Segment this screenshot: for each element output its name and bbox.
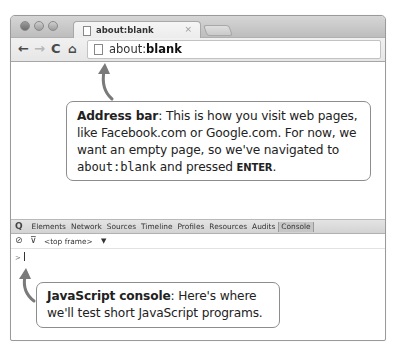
- filter-icon[interactable]: ⊽: [30, 235, 37, 245]
- devtools-tab-bar: Q Elements Network Sources Timeline Prof…: [11, 219, 385, 234]
- address-bar[interactable]: about:blank: [87, 40, 381, 59]
- reload-icon[interactable]: C: [51, 41, 61, 57]
- callout-term: Address bar: [77, 109, 158, 123]
- maximize-window-button[interactable]: [48, 21, 58, 31]
- new-tab-button[interactable]: [203, 25, 233, 36]
- curved-arrow-icon: [95, 62, 119, 102]
- devtools-tabs: Elements Network Sources Timeline Profil…: [29, 222, 314, 232]
- callout-text: and pressed: [156, 160, 237, 174]
- tab-timeline[interactable]: Timeline: [139, 222, 175, 232]
- chevron-down-icon[interactable]: ▼: [101, 237, 106, 245]
- callout-code: about:blank: [77, 160, 156, 174]
- frame-select[interactable]: <top frame>: [44, 237, 93, 246]
- close-window-button[interactable]: [20, 21, 30, 31]
- console-callout: JavaScript console: Here's where we'll t…: [36, 282, 280, 328]
- page-icon: [83, 26, 91, 36]
- tab-elements[interactable]: Elements: [29, 222, 68, 232]
- tab-audits[interactable]: Audits: [250, 222, 278, 232]
- tab-console[interactable]: Console: [278, 222, 314, 232]
- tab-about-blank[interactable]: about:blank ×: [73, 21, 201, 39]
- browser-toolbar: ← → C ⌂ about:blank: [11, 38, 385, 62]
- title-bar: about:blank ×: [11, 16, 385, 38]
- minimize-window-button[interactable]: [34, 21, 44, 31]
- prompt-icon: >: [15, 254, 21, 262]
- callout-key: ENTER: [237, 162, 273, 173]
- tab-resources[interactable]: Resources: [207, 222, 250, 232]
- clear-console-icon[interactable]: ⊘: [15, 235, 23, 245]
- search-icon[interactable]: Q: [15, 221, 23, 231]
- console-input[interactable]: >: [15, 252, 25, 262]
- tab-network[interactable]: Network: [68, 222, 104, 232]
- console-toolbar: ⊘ ⊽ <top frame> ▼: [11, 235, 385, 249]
- tab-sources[interactable]: Sources: [104, 222, 138, 232]
- home-icon[interactable]: ⌂: [68, 41, 77, 57]
- address-bar-text: about:blank: [109, 42, 182, 56]
- url-host: blank: [146, 42, 182, 56]
- callout-text: .: [272, 160, 276, 174]
- text-cursor: [24, 252, 25, 261]
- url-scheme: about:: [109, 42, 146, 56]
- back-arrow-icon[interactable]: ←: [18, 41, 29, 57]
- tab-profiles[interactable]: Profiles: [175, 222, 207, 232]
- forward-arrow-icon[interactable]: →: [34, 41, 45, 57]
- tab-title: about:blank: [96, 25, 154, 35]
- curved-arrow-icon: [15, 266, 39, 306]
- address-bar-callout: Address bar: This is how you visit web p…: [66, 101, 371, 181]
- callout-term: JavaScript console: [47, 289, 171, 303]
- page-icon: [94, 44, 103, 55]
- tab-close-icon[interactable]: ×: [184, 24, 192, 34]
